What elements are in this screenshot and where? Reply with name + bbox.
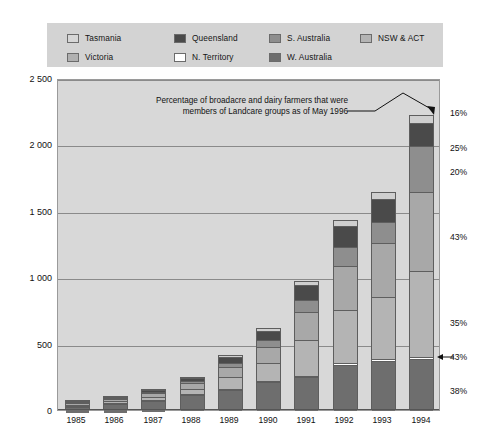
bar-segment-queensland — [257, 332, 280, 341]
bar-segment-nsw-act — [295, 341, 318, 376]
legend-row-1: Tasmania Queensland S. Australia NSW & A… — [47, 28, 443, 48]
bar-segment-victoria — [219, 368, 242, 378]
bar-segment-victoria — [334, 267, 357, 311]
legend-swatch-nsw-act — [360, 34, 372, 43]
bar-segment-w-australia — [334, 366, 357, 411]
gridline — [58, 146, 439, 147]
legend-swatch-victoria — [67, 53, 79, 62]
legend-swatch-w-australia — [269, 53, 281, 62]
percentage-label-tasmania: 16% — [450, 108, 467, 118]
bar-segment-victoria — [372, 244, 395, 298]
legend-label-nsw-act: NSW & ACT — [378, 33, 425, 43]
legend-swatch-s-australia — [269, 34, 281, 43]
percentage-label-queensland: 25% — [450, 143, 467, 153]
legend-entry-queensland[interactable]: Queensland — [174, 28, 238, 48]
bar-segment-nsw-act — [410, 272, 433, 358]
percentage-label-victoria: 43% — [450, 232, 467, 242]
y-tick-label: 500 — [6, 340, 52, 350]
legend-label-n-territory: N. Territory — [192, 52, 234, 62]
bar-1992[interactable] — [333, 220, 358, 410]
bar-segment-victoria — [410, 193, 433, 271]
legend-label-s-australia: S. Australia — [287, 33, 330, 43]
bar-1989[interactable] — [218, 355, 243, 410]
bar-segment-victoria — [295, 313, 318, 341]
bar-segment-w-australia — [295, 378, 318, 411]
legend-label-w-australia: W. Australia — [287, 52, 332, 62]
x-tick-label-1992: 1992 — [325, 414, 363, 426]
y-tick-label: 2 500 — [6, 74, 52, 84]
x-tick-label-1994: 1994 — [402, 414, 440, 426]
legend-entry-tasmania[interactable]: Tasmania — [67, 28, 121, 48]
bar-1991[interactable] — [294, 281, 319, 410]
x-tick-label-1988: 1988 — [172, 414, 210, 426]
bar-segment-queensland — [334, 227, 357, 248]
bar-1994[interactable] — [409, 115, 434, 410]
bar-segment-s-australia — [410, 147, 433, 193]
y-tick-label: 1 000 — [6, 273, 52, 283]
percentage-label-w-australia: 38% — [450, 386, 467, 396]
plot-area — [57, 79, 440, 411]
bar-1990[interactable] — [256, 328, 281, 410]
bar-segment-queensland — [295, 286, 318, 301]
bar-segment-w-australia — [372, 362, 395, 412]
legend-swatch-queensland — [174, 34, 186, 43]
legend-label-victoria: Victoria — [85, 52, 113, 62]
legend-swatch-n-territory — [174, 53, 186, 62]
bar-segment-nsw-act — [372, 298, 395, 360]
x-tick-label-1991: 1991 — [287, 414, 325, 426]
bar-segment-nsw-act — [257, 364, 280, 383]
pointer-arrow-icon — [437, 352, 455, 362]
legend-entry-nsw-act[interactable]: NSW & ACT — [360, 28, 425, 48]
chart-legend: Tasmania Queensland S. Australia NSW & A… — [47, 23, 443, 67]
bar-segment-s-australia — [372, 223, 395, 244]
legend-entry-n-territory[interactable]: N. Territory — [174, 47, 234, 67]
legend-label-queensland: Queensland — [192, 33, 238, 43]
legend-label-tasmania: Tasmania — [85, 33, 121, 43]
bar-segment-s-australia — [257, 341, 280, 348]
bar-segment-s-australia — [295, 301, 318, 314]
bar-segment-nsw-act — [334, 311, 357, 364]
bar-1993[interactable] — [371, 192, 396, 410]
landcare-stacked-bar-chart: Tasmania Queensland S. Australia NSW & A… — [0, 0, 493, 444]
y-tick-label: 2 000 — [6, 140, 52, 150]
y-tick-label: 1 500 — [6, 207, 52, 217]
x-tick-label-1989: 1989 — [210, 414, 248, 426]
legend-entry-s-australia[interactable]: S. Australia — [269, 28, 330, 48]
bar-1986[interactable] — [103, 396, 128, 410]
bar-segment-w-australia — [257, 383, 280, 410]
x-tick-label-1993: 1993 — [363, 414, 401, 426]
bar-segment-tasmania — [372, 193, 395, 200]
legend-entry-victoria[interactable]: Victoria — [67, 47, 113, 67]
x-tick-label-1985: 1985 — [57, 414, 95, 426]
bar-segment-w-australia — [142, 402, 165, 412]
chart-annotation: Percentage of broadacre and dairy farmer… — [133, 95, 348, 117]
bar-segment-nsw-act — [219, 378, 242, 390]
bar-segment-victoria — [257, 348, 280, 364]
bar-segment-queensland — [372, 200, 395, 223]
legend-entry-w-australia[interactable]: W. Australia — [269, 47, 332, 67]
bar-segment-s-australia — [334, 248, 357, 267]
percentage-label-s-australia: 20% — [450, 167, 467, 177]
x-tick-label-1986: 1986 — [95, 414, 133, 426]
bar-1987[interactable] — [141, 389, 166, 410]
y-tick-label: 0 — [6, 406, 52, 416]
x-tick-label-1990: 1990 — [249, 414, 287, 426]
legend-row-2: Victoria N. Territory W. Australia — [47, 47, 443, 67]
gridline — [58, 80, 439, 81]
percentage-label-nsw-act: 35% — [450, 318, 467, 328]
bar-1988[interactable] — [180, 377, 205, 410]
bar-segment-w-australia — [410, 360, 433, 411]
bar-segment-queensland — [410, 124, 433, 147]
bar-segment-tasmania — [410, 116, 433, 124]
y-axis: 05001 0001 5002 0002 500 — [2, 79, 52, 411]
x-axis: 1985198619871988198919901991199219931994 — [57, 414, 440, 432]
x-axis-line — [58, 409, 439, 410]
legend-swatch-tasmania — [67, 34, 79, 43]
x-tick-label-1987: 1987 — [134, 414, 172, 426]
